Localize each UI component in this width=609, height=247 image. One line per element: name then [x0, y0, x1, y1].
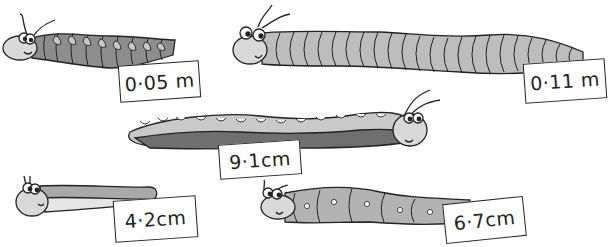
- length-label-middle: 9·1cm: [218, 139, 302, 180]
- length-label-top-right: 0·11 m: [523, 58, 608, 104]
- caterpillar-top-left: [3, 14, 175, 68]
- length-label-top-left: 0·05 m: [118, 60, 201, 103]
- length-label-bottom-left: 4·2cm: [113, 195, 199, 243]
- caterpillar-bottom-right: [261, 180, 470, 224]
- length-label-bottom-right: 6·7cm: [442, 196, 527, 244]
